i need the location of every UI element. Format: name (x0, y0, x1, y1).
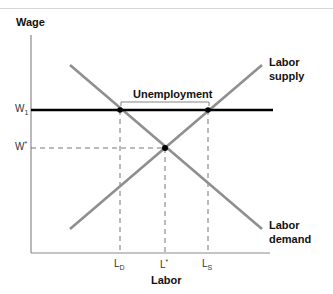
lstar-tick-label: L* (160, 258, 168, 270)
x-axis-label: Labor (151, 274, 182, 286)
w1-tick-label: W1 (15, 103, 28, 116)
wstar-tick-label: W* (15, 140, 27, 152)
supply-label: Labor supply (269, 55, 304, 83)
ld-tick-label: LD (114, 258, 125, 271)
y-axis-label: Wage (16, 16, 45, 28)
unemployment-bracket (121, 102, 209, 106)
ld-point (117, 107, 123, 113)
demand-label: Labor demand (269, 218, 311, 246)
ls-tick-label: LS (202, 258, 212, 271)
labor-market-diagram (0, 0, 333, 294)
ls-point (205, 107, 211, 113)
equilibrium-point (162, 145, 168, 151)
unemployment-label: Unemployment (133, 88, 212, 100)
